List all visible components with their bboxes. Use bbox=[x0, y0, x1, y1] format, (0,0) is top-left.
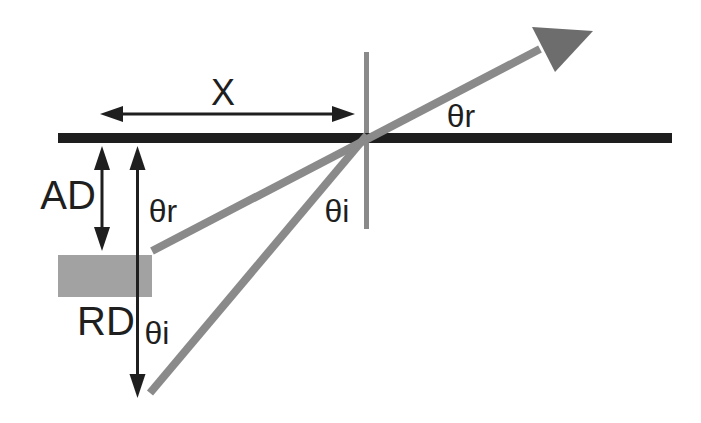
label-theta-i-surface: θi bbox=[325, 193, 350, 229]
rd-dimension-top-arrowhead bbox=[130, 146, 146, 170]
label-x: X bbox=[211, 72, 235, 113]
reflected-ray-arrowhead bbox=[532, 27, 593, 72]
ad-dimension-bottom-arrowhead bbox=[94, 227, 110, 251]
incident-ray bbox=[150, 135, 367, 393]
x-dimension-left-arrowhead bbox=[100, 106, 123, 122]
ad-dimension-top-arrowhead bbox=[94, 146, 110, 170]
label-theta-r-detector: θr bbox=[149, 193, 178, 229]
label-ad: AD bbox=[40, 173, 96, 217]
label-theta-r-surface: θr bbox=[447, 98, 476, 134]
label-rd: RD bbox=[77, 299, 135, 343]
ad-dimension-arrow bbox=[94, 146, 110, 251]
x-dimension-right-arrowhead bbox=[332, 106, 355, 122]
triangulation-diagram: X AD RD θr θi θi θr bbox=[0, 0, 701, 423]
diagram-canvas: X AD RD θr θi θi θr bbox=[0, 0, 701, 423]
rd-dimension-bottom-arrowhead bbox=[130, 374, 146, 398]
label-theta-i-detector: θi bbox=[145, 315, 170, 351]
